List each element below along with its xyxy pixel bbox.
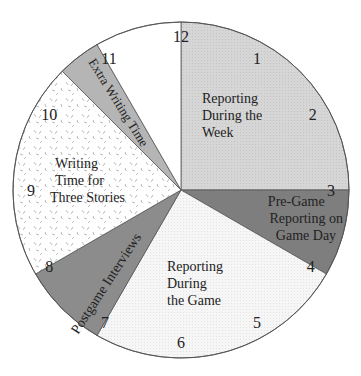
clock-number: 4 <box>307 258 315 275</box>
clock-number: 3 <box>327 182 335 199</box>
clock-pie-chart: 121234567891011 Reporting During the Wee… <box>0 0 361 376</box>
clock-number: 8 <box>45 258 53 275</box>
clock-number: 6 <box>177 334 185 351</box>
clock-number: 2 <box>309 106 317 123</box>
clock-number: 1 <box>253 50 261 67</box>
clock-number: 9 <box>27 182 35 199</box>
clock-number: 7 <box>101 314 109 331</box>
pie-slice <box>181 22 349 190</box>
clock-number: 5 <box>253 314 261 331</box>
clock-number: 12 <box>173 28 189 45</box>
clock-number: 10 <box>41 106 57 123</box>
